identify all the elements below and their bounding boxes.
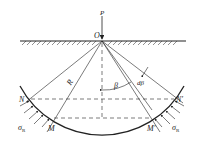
label-sigma-right: σR (172, 123, 180, 133)
dbeta-tick (143, 67, 148, 75)
label-O: O (94, 31, 100, 40)
stress-arrows-right (155, 101, 184, 127)
label-N: N (18, 95, 25, 104)
dashed-guides (31, 43, 174, 120)
label-M-prime: M′ (146, 124, 156, 133)
label-N-prime: N′ (175, 95, 183, 104)
label-R: R (64, 78, 75, 88)
label-dbeta: dβ (137, 79, 145, 87)
pressure-bulb-diagram: P O R β dβ N N′ M M′ σR σR (0, 0, 202, 148)
label-P: P (99, 9, 105, 17)
stress-arrows-left (20, 101, 49, 127)
label-M: M (47, 124, 56, 133)
label-beta: β (113, 81, 118, 90)
label-sigma-left: σR (18, 123, 26, 133)
